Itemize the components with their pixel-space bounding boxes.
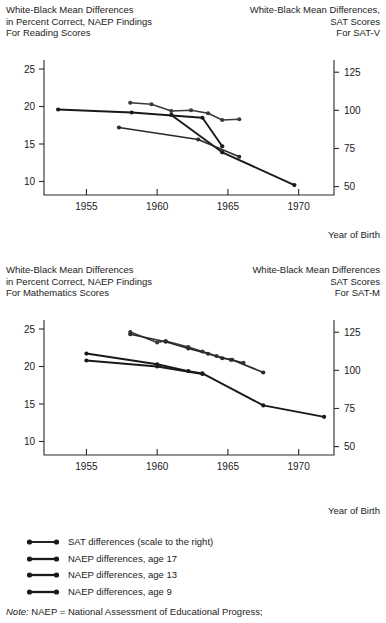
legend-line-marker-icon bbox=[26, 553, 60, 565]
chart-mathematics-y2tick-label: 125 bbox=[344, 327, 361, 338]
chart2-xaxis-title: Year of Birth bbox=[328, 505, 380, 516]
chart-mathematics-y2tick-label: 100 bbox=[344, 365, 361, 376]
legend-line-marker-icon bbox=[26, 569, 60, 581]
chart2-title-right-line-2: SAT Scores bbox=[252, 276, 380, 288]
chart-reading-ytick-label: 25 bbox=[24, 64, 36, 75]
chart-mathematics-xtick-label: 1955 bbox=[75, 461, 98, 472]
chart1-title-left: White-Black Mean Differences in Percent … bbox=[6, 4, 152, 39]
chart1-xaxis-title: Year of Birth bbox=[328, 229, 380, 240]
chart-mathematics-series-0 bbox=[84, 351, 326, 419]
legend-item: NAEP differences, age 9 bbox=[26, 584, 213, 601]
chart1-title-right-line-1: White-Black Mean Differences, bbox=[250, 4, 380, 16]
chart-mathematics-svg: 1015202550751001251955196019651970 bbox=[0, 310, 386, 480]
chart-mathematics-x-axis: 1955196019651970 bbox=[75, 449, 310, 472]
chart-mathematics-series-3 bbox=[128, 332, 265, 374]
chart-reading-xtick-label: 1955 bbox=[75, 201, 98, 212]
legend-line-marker-icon bbox=[26, 586, 60, 598]
chart2-title-right-line-3: For SAT-M bbox=[252, 287, 380, 299]
chart-reading-y-axis-left: 10152025 bbox=[24, 64, 44, 188]
chart-mathematics-y-axis-left: 10152025 bbox=[24, 324, 44, 448]
chart-reading-y2tick-label: 50 bbox=[344, 181, 356, 192]
chart-reading-series-0 bbox=[169, 113, 296, 187]
chart1-title-right: White-Black Mean Differences, SAT Scores… bbox=[250, 4, 380, 39]
chart2-title-right: White-Black Mean Differences SAT Scores … bbox=[252, 264, 380, 299]
chart-mathematics-y-axis-right: 5075100125 bbox=[334, 327, 361, 452]
chart-reading-y2tick-label: 125 bbox=[344, 67, 361, 78]
chart-mathematics-y2tick-label: 75 bbox=[344, 403, 356, 414]
chart-reading-xtick-label: 1960 bbox=[146, 201, 169, 212]
chart-reading-y-axis-right: 5075100125 bbox=[334, 67, 361, 192]
chart-mathematics-ytick-label: 15 bbox=[24, 399, 36, 410]
note-text: NAEP = National Assessment of Educationa… bbox=[29, 606, 263, 617]
chart-reading-xtick-label: 1965 bbox=[217, 201, 240, 212]
note-prefix: Note: bbox=[6, 606, 29, 617]
chart-reading-svg: 1015202550751001251955196019651970 bbox=[0, 50, 386, 220]
legend-item-label: NAEP differences, age 9 bbox=[68, 584, 172, 601]
legend: SAT differences (scale to the right)NAEP… bbox=[26, 534, 213, 600]
legend-line-marker-icon bbox=[26, 536, 60, 548]
chart1-title-left-line-2: in Percent Correct, NAEP Findings bbox=[6, 16, 152, 28]
chart2-title-left-line-2: in Percent Correct, NAEP Findings bbox=[6, 276, 152, 288]
chart-reading-ytick-label: 20 bbox=[24, 101, 36, 112]
chart-mathematics-series-2 bbox=[84, 358, 204, 376]
chart-reading-x-axis: 1955196019651970 bbox=[75, 189, 310, 212]
chart2-title-left-line-3: For Mathematics Scores bbox=[6, 287, 152, 299]
chart-reading-y2tick-label: 100 bbox=[344, 105, 361, 116]
chart-mathematics-y2tick-label: 50 bbox=[344, 441, 356, 452]
chart-mathematics-xtick-label: 1965 bbox=[217, 461, 240, 472]
figure-root: White-Black Mean Differences in Percent … bbox=[0, 0, 386, 623]
chart-reading-series-1 bbox=[128, 101, 241, 122]
figure-note: Note: NAEP = National Assessment of Educ… bbox=[6, 606, 263, 618]
chart-reading-ytick-label: 10 bbox=[24, 176, 36, 187]
chart-mathematics-xtick-label: 1960 bbox=[146, 461, 169, 472]
legend-item-label: SAT differences (scale to the right) bbox=[68, 534, 213, 551]
chart-reading-xtick-label: 1970 bbox=[288, 201, 311, 212]
chart-reading-ytick-label: 15 bbox=[24, 139, 36, 150]
chart1-title-left-line-1: White-Black Mean Differences bbox=[6, 4, 152, 16]
chart-mathematics-ytick-label: 20 bbox=[24, 361, 36, 372]
chart-mathematics: 1015202550751001251955196019651970 bbox=[0, 310, 386, 480]
chart2-title-left-line-1: White-Black Mean Differences bbox=[6, 264, 152, 276]
chart2-title-left: White-Black Mean Differences in Percent … bbox=[6, 264, 152, 299]
legend-item-label: NAEP differences, age 17 bbox=[68, 551, 177, 568]
chart1-title-right-line-3: For SAT-V bbox=[250, 27, 380, 39]
chart-reading: 1015202550751001251955196019651970 bbox=[0, 50, 386, 220]
chart1-title-left-line-3: For Reading Scores bbox=[6, 27, 152, 39]
chart-mathematics-ytick-label: 10 bbox=[24, 436, 36, 447]
legend-item: SAT differences (scale to the right) bbox=[26, 534, 213, 551]
chart-reading-series-2 bbox=[56, 107, 224, 148]
chart-mathematics-ytick-label: 25 bbox=[24, 324, 36, 335]
chart2-title-right-line-1: White-Black Mean Differences bbox=[252, 264, 380, 276]
legend-item-label: NAEP differences, age 13 bbox=[68, 567, 177, 584]
chart-mathematics-axes bbox=[44, 320, 334, 455]
chart-reading-y2tick-label: 75 bbox=[344, 143, 356, 154]
chart-mathematics-xtick-label: 1970 bbox=[288, 461, 311, 472]
chart1-title-right-line-2: SAT Scores bbox=[250, 16, 380, 28]
legend-item: NAEP differences, age 17 bbox=[26, 551, 213, 568]
legend-item: NAEP differences, age 13 bbox=[26, 567, 213, 584]
